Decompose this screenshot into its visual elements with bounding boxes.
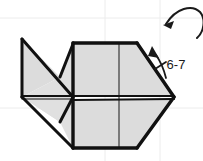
edge-center-spine-lower xyxy=(73,99,174,100)
face-body-upper-left xyxy=(74,44,119,96)
repeat-arrow-head xyxy=(148,46,159,58)
rotate-arrow xyxy=(163,8,203,38)
repeat-steps-label: 6-7 xyxy=(167,57,186,72)
rotate-arrow-head xyxy=(163,21,174,29)
origami-illustration: 6-7 xyxy=(0,0,203,161)
origami-diagram: 6-7 xyxy=(0,0,203,161)
edge-upper-left-top xyxy=(22,39,73,44)
face-body-lower-left xyxy=(74,99,119,148)
